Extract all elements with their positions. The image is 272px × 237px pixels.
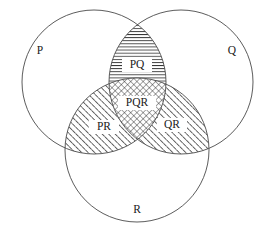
region-label-pr: PR [97, 120, 111, 132]
region-label-pq-group: PQ [122, 57, 152, 72]
set-label-p: P [37, 44, 43, 56]
region-label-qr-group: QR [157, 118, 187, 132]
region-label-pr-group: PR [89, 120, 119, 134]
region-label-qr: QR [164, 118, 180, 130]
venn-diagram-canvas: P Q R PQ PQR PR QR [0, 0, 272, 237]
venn-diagram-container: P Q R PQ PQR PR QR [0, 0, 272, 237]
region-label-pq: PQ [130, 58, 145, 70]
region-label-pqr-group: PQR [118, 96, 156, 110]
set-label-r: R [133, 203, 141, 215]
set-label-q: Q [228, 44, 237, 56]
region-label-pqr: PQR [126, 96, 149, 108]
